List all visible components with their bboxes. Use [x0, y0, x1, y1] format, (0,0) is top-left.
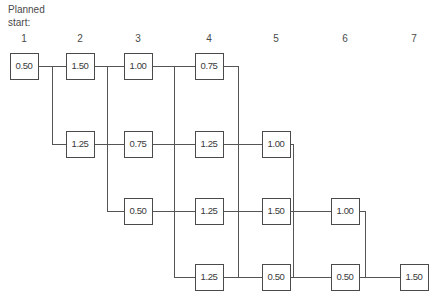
diagram-node[interactable]: 0.50	[263, 265, 291, 291]
diagram-node[interactable]: 1.25	[196, 265, 224, 291]
column-header-3: 3	[126, 33, 150, 44]
node-value-label: 0.50	[337, 271, 354, 282]
column-header-4: 4	[197, 33, 221, 44]
node-value-label: 0.75	[130, 138, 147, 149]
diagram-node[interactable]: 1.50	[67, 54, 95, 80]
diagram-node[interactable]: 1.00	[332, 199, 360, 225]
node-value-label: 0.50	[268, 271, 285, 282]
node-value-label: 1.50	[72, 60, 89, 71]
diagram-node[interactable]: 0.75	[196, 54, 224, 80]
node-value-label: 0.75	[201, 60, 218, 71]
nodes-group: 0.501.501.000.751.250.751.251.000.501.25…	[11, 54, 429, 291]
node-value-label: 1.25	[201, 205, 218, 216]
node-value-label: 1.00	[337, 205, 354, 216]
network-diagram: 0.501.501.000.751.250.751.251.000.501.25…	[0, 0, 437, 304]
diagram-node[interactable]: 1.50	[263, 199, 291, 225]
node-value-label: 1.50	[268, 205, 285, 216]
column-header-5: 5	[264, 33, 288, 44]
diagram-node[interactable]: 0.75	[125, 132, 153, 158]
node-value-label: 0.50	[130, 205, 147, 216]
diagram-node[interactable]: 1.25	[67, 132, 95, 158]
edges-group	[38, 66, 400, 277]
column-header-1: 1	[12, 33, 36, 44]
node-value-label: 1.25	[201, 138, 218, 149]
diagram-node[interactable]: 0.50	[11, 54, 39, 80]
diagram-canvas: Planned start: 0.501.501.000.751.250.751…	[0, 0, 437, 304]
node-value-label: 1.00	[130, 60, 147, 71]
node-value-label: 1.25	[201, 271, 218, 282]
column-header-2: 2	[68, 33, 92, 44]
diagram-node[interactable]: 1.00	[263, 132, 291, 158]
node-value-label: 0.50	[16, 60, 33, 71]
diagram-node[interactable]: 1.25	[196, 199, 224, 225]
diagram-node[interactable]: 1.00	[125, 54, 153, 80]
column-header-7: 7	[402, 33, 426, 44]
column-header-6: 6	[333, 33, 357, 44]
node-value-label: 1.00	[268, 138, 285, 149]
diagram-node[interactable]: 0.50	[125, 199, 153, 225]
diagram-node[interactable]: 1.50	[401, 265, 429, 291]
diagram-node[interactable]: 1.25	[196, 132, 224, 158]
node-value-label: 1.50	[406, 271, 423, 282]
node-value-label: 1.25	[72, 138, 89, 149]
diagram-node[interactable]: 0.50	[332, 265, 360, 291]
